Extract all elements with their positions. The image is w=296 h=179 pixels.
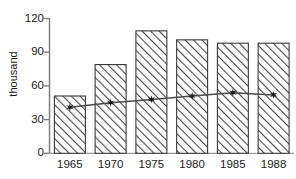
x-tick-label: 1980: [172, 158, 213, 170]
plot-overlay: [0, 0, 296, 179]
x-tick-label: 1975: [131, 158, 172, 170]
x-tick-label: 1985: [213, 158, 254, 170]
x-tick-label: 1970: [90, 158, 131, 170]
x-tick-label: 1965: [50, 158, 91, 170]
x-tick-label: 1988: [253, 158, 294, 170]
bar-chart: thousand 120 90 60 30 0 1965 1970: [0, 0, 296, 179]
